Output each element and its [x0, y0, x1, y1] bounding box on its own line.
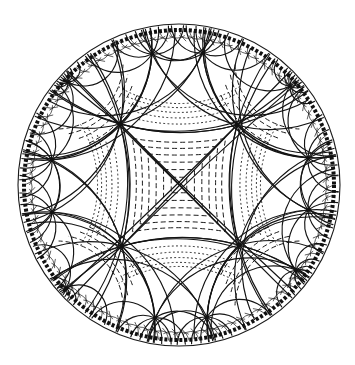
- vertex-dot: [235, 123, 239, 127]
- geodesic-spoke: [64, 125, 237, 292]
- vertex-dot: [288, 84, 292, 88]
- vertex-dot: [306, 208, 310, 212]
- geodesic-spoke: [55, 259, 207, 317]
- dashed-hatch-arc: [89, 227, 137, 275]
- geodesic-spoke: [85, 124, 127, 313]
- geodesic-lines: [19, 25, 338, 344]
- geodesic-spoke: [232, 59, 275, 245]
- hyperbolic-tiling-figure: [0, 0, 355, 365]
- vertex-dot: [50, 158, 54, 162]
- dotted-hatch-arc: [252, 135, 261, 235]
- rim-spoke: [44, 107, 58, 108]
- geodesic-spoke: [23, 124, 120, 156]
- vertex-dot: [294, 268, 298, 272]
- geodesic-spoke: [52, 31, 175, 160]
- dotted-hatch-arc: [139, 120, 219, 125]
- geodesic-spoke: [68, 74, 239, 245]
- dotted-hatch-arc: [97, 135, 106, 235]
- rim-spoke: [227, 321, 238, 330]
- connecting-edge: [68, 82, 120, 124]
- vertex-dot: [150, 52, 154, 56]
- geodesic-spoke: [194, 32, 308, 158]
- vertex-dot: [118, 122, 122, 126]
- dotted-hatch-arc: [114, 145, 119, 225]
- vertex-dot: [201, 51, 205, 55]
- geodesic-spoke: [242, 158, 308, 319]
- vertex-dot: [64, 286, 68, 290]
- dotted-hatch-arc: [240, 145, 245, 225]
- geodesic-spoke: [122, 246, 213, 341]
- vertex-dot: [50, 210, 54, 214]
- dotted-hatch-arc: [139, 246, 219, 251]
- vertex-dot: [306, 156, 310, 160]
- vertex-dot: [237, 243, 241, 247]
- rim-spoke: [35, 123, 49, 125]
- vertex-dot: [205, 315, 209, 319]
- vertex-dot: [153, 316, 157, 320]
- vertex-dot: [120, 244, 124, 248]
- vertex-dot: [66, 80, 70, 84]
